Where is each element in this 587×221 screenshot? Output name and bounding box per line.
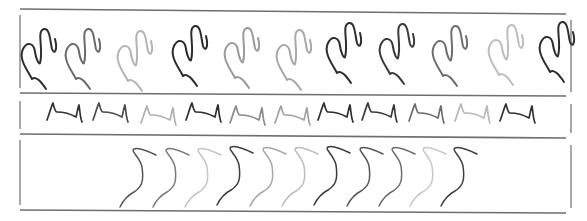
scribble-glyph (327, 23, 361, 83)
scribble-glyph (22, 29, 56, 89)
scribble-glyph (66, 29, 100, 89)
pulse-waveform (93, 103, 128, 122)
pulse-waveform (47, 103, 82, 122)
scribble-glyph (225, 28, 259, 88)
pulse-waveform (141, 106, 176, 125)
pulse-waveform (230, 106, 265, 125)
s-curve-row (120, 146, 477, 207)
pulse-waveform (362, 103, 397, 122)
scribble-glyph (433, 26, 467, 86)
scribble-glyph (540, 22, 574, 82)
pulse-waveform (186, 103, 221, 122)
scribble-glyph (173, 26, 207, 86)
s-curve-stroke (410, 147, 446, 206)
s-curve-stroke (120, 148, 156, 207)
s-curve-stroke (379, 147, 415, 206)
s-curve-stroke (153, 148, 189, 207)
stroke-samples-figure (0, 0, 587, 221)
scribble-glyph (380, 24, 414, 84)
s-curve-stroke (217, 146, 253, 205)
s-curve-stroke (314, 146, 350, 205)
waveform-row (47, 103, 535, 125)
s-curve-stroke (250, 147, 286, 206)
s-curve-stroke (185, 148, 221, 207)
scribble-glyph (489, 25, 523, 85)
pulse-waveform (455, 104, 490, 123)
pulse-waveform (318, 103, 353, 122)
pulse-waveform (275, 106, 310, 125)
scribble-glyph (118, 31, 152, 91)
pulse-waveform (500, 104, 535, 123)
pulse-waveform (409, 104, 444, 123)
s-curve-stroke (282, 147, 318, 206)
scribble-row (22, 22, 574, 91)
scribble-glyph (277, 30, 311, 90)
s-curve-stroke (347, 147, 383, 206)
s-curve-stroke (441, 147, 477, 206)
